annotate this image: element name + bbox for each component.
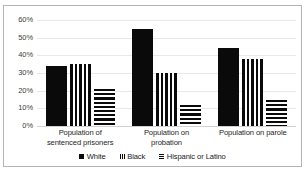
bar[interactable] (94, 89, 115, 126)
y-axis-tick-label: 60% (18, 16, 33, 24)
bar[interactable] (132, 29, 153, 126)
y-axis-tick-label: 30% (18, 69, 33, 77)
legend-swatch-icon (79, 154, 84, 159)
bar[interactable] (242, 59, 263, 126)
bar[interactable] (70, 64, 91, 126)
legend-label: Hispanic or Latino (167, 152, 226, 161)
y-axis: 60%50%40%30%20%10%0% (4, 6, 36, 126)
bars-layer (37, 20, 296, 126)
legend-item[interactable]: Black (120, 152, 146, 161)
chart-legend: WhiteBlackHispanic or Latino (4, 150, 301, 163)
y-axis-tick-label: 40% (18, 51, 33, 59)
y-axis-tick-label: 0% (22, 122, 33, 130)
x-axis-category-label: Population onprobation (123, 127, 209, 151)
bar-group (37, 20, 123, 126)
bar-group (123, 20, 209, 126)
bar[interactable] (156, 73, 177, 126)
bar[interactable] (46, 66, 67, 126)
x-axis-category-label: Population ofsentenced prisoners (37, 127, 123, 151)
y-axis-tick-label: 50% (18, 34, 33, 42)
x-axis-category-label-line: Population on (123, 128, 209, 138)
bar[interactable] (218, 48, 239, 126)
x-axis-category-label-line: Population of (37, 128, 123, 138)
plot-wrapper: 60%50%40%30%20%10%0% Population ofsenten… (4, 6, 301, 152)
y-axis-tick-label: 10% (18, 104, 33, 112)
y-axis-tick-label: 20% (18, 87, 33, 95)
x-axis-category-label-line: Population on parole (210, 128, 296, 138)
legend-swatch-icon (159, 154, 164, 159)
legend-swatch-icon (120, 154, 125, 159)
chart-card: 60%50%40%30%20%10%0% Population ofsenten… (3, 5, 302, 167)
x-axis: Population ofsentenced prisonersPopulati… (37, 127, 296, 151)
x-axis-category-label: Population on parole (210, 127, 296, 151)
legend-item[interactable]: Hispanic or Latino (159, 152, 225, 161)
bar[interactable] (180, 105, 201, 126)
x-axis-category-label-line: sentenced prisoners (37, 138, 123, 148)
plot-area (37, 20, 296, 126)
bar[interactable] (266, 100, 287, 127)
legend-label: Black (127, 152, 145, 161)
legend-item[interactable]: White (79, 152, 105, 161)
legend-label: White (87, 152, 106, 161)
bar-group (210, 20, 296, 126)
x-axis-category-label-line: probation (123, 138, 209, 148)
